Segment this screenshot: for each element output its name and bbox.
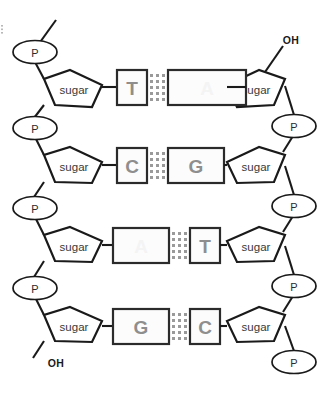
phosphate-label: P — [31, 203, 39, 215]
hbond-dot-grid — [150, 152, 165, 179]
base-letter: A — [134, 236, 148, 257]
sugar-right-3[interactable]: sugar — [227, 227, 285, 262]
base-box-right-2[interactable]: G — [168, 148, 224, 183]
right-backbone-sugar3-p3 — [285, 246, 294, 275]
phosphate-left-4[interactable]: P — [13, 277, 57, 300]
right-backbone-p2-sugar3 — [283, 216, 293, 232]
base-letter: T — [126, 78, 138, 99]
sugar-label: sugar — [242, 161, 271, 173]
hbond-dot-grid — [150, 74, 165, 101]
sugar-right-4[interactable]: sugar — [227, 307, 285, 342]
hydroxyl-label-top-right: OH — [283, 34, 299, 46]
base-box-left-2[interactable]: C — [117, 148, 147, 183]
base-letter: A — [200, 78, 214, 99]
phosphate-label: P — [290, 357, 298, 369]
base-box-right-3[interactable]: T — [190, 228, 220, 263]
hydrogen-bonds-4 — [172, 313, 187, 340]
left-strand: P P P P sugar su — [13, 20, 102, 369]
phosphate-left-3[interactable]: P — [13, 197, 57, 220]
sugar-label: sugar — [242, 321, 271, 333]
sugar-left-4[interactable]: sugar — [44, 307, 102, 342]
right-backbone-sugar4-p4 — [285, 326, 294, 351]
phosphate-label: P — [290, 201, 298, 213]
left-backbone-p1-sugar1 — [35, 62, 44, 79]
sugar-label: sugar — [60, 241, 89, 253]
phosphate-right-2[interactable]: P — [272, 195, 316, 218]
sugar-right-2[interactable]: sugar — [227, 147, 285, 183]
hydrogen-bonds-3 — [172, 232, 187, 259]
base-pair-row-4: G — [102, 309, 227, 344]
phosphate-label: P — [290, 121, 298, 133]
sugar-left-2[interactable]: sugar — [44, 147, 102, 183]
right-backbone-p1-sugar2 — [283, 136, 293, 152]
sugar-left-1[interactable]: sugar — [44, 70, 102, 107]
base-letter: C — [198, 317, 212, 338]
phosphate-label: P — [31, 283, 39, 295]
base-box-left-4[interactable]: G — [113, 309, 169, 344]
base-pair-row-3: A — [102, 228, 227, 263]
hbond-dot-grid — [172, 313, 187, 340]
base-letter: G — [134, 317, 149, 338]
base-pair-row-2: C — [102, 148, 227, 183]
hydrogen-bonds-1 — [150, 74, 165, 101]
phosphate-left-1[interactable]: P — [13, 41, 57, 64]
phosphate-label: P — [31, 47, 39, 59]
base-letter: G — [189, 156, 204, 177]
hydrogen-bonds-2 — [150, 152, 165, 179]
edge-artifact-mark — [1, 25, 3, 34]
sugar-label: sugar — [60, 321, 89, 333]
base-box-left-1[interactable]: T — [117, 70, 147, 105]
sugar-label: sugar — [60, 161, 89, 173]
hydroxyl-label-bottom-left: OH — [48, 357, 64, 369]
left-backbone-sugar2-p3 — [34, 182, 44, 197]
sugar-label: sugar — [242, 241, 271, 253]
base-box-right-4[interactable]: C — [190, 309, 220, 344]
dna-ladder-diagram: P P P P sugar su — [0, 0, 329, 397]
base-pair-row-1: T — [102, 70, 246, 105]
right-backbone-sugar1-p1 — [285, 86, 294, 115]
dna-diagram-canvas: P P P P sugar su — [0, 0, 329, 397]
phosphate-label: P — [31, 123, 39, 135]
phosphate-right-1[interactable]: P — [272, 115, 316, 138]
right-backbone-p3-sugar4 — [283, 296, 293, 312]
left-backbone-sugar3-p4 — [34, 261, 44, 277]
left-terminal-line-bottom — [33, 341, 44, 358]
base-box-left-3[interactable]: A — [113, 228, 169, 263]
base-letter: C — [125, 156, 139, 177]
hbond-dot-grid — [172, 232, 187, 259]
sugar-left-3[interactable]: sugar — [44, 227, 102, 262]
phosphate-right-3[interactable]: P — [272, 275, 316, 298]
base-letter: T — [199, 236, 211, 257]
phosphate-right-4[interactable]: P — [272, 351, 316, 374]
right-backbone-sugar2-p2 — [285, 166, 294, 195]
phosphate-left-2[interactable]: P — [13, 117, 57, 140]
phosphate-label: P — [290, 281, 298, 293]
right-terminal-line — [265, 46, 283, 72]
sugar-label: sugar — [60, 84, 89, 96]
